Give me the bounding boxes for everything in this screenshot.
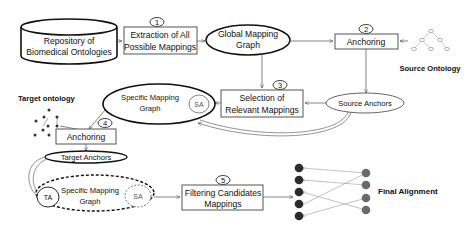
target-ontology-label: Target ontology	[18, 94, 76, 103]
repository-cylinder: Repository of Biomedical Ontologies	[21, 19, 117, 64]
step-2-label: Anchoring	[347, 37, 386, 47]
pipeline-diagram: Repository of Biomedical Ontologies 1 Ex…	[0, 0, 476, 235]
step-3-number: 3	[278, 81, 282, 90]
step-1-extraction: 1 Extraction of All Possible Mappings	[124, 18, 197, 55]
specific-mapping-graph-1: Specific Mapping Graph SA	[103, 84, 215, 124]
sa-badge-1-label: SA	[194, 101, 204, 108]
step-5-filtering: 5 Filtering Candidates Mappings	[182, 176, 263, 211]
step-2-number: 2	[364, 25, 368, 34]
target-anchors: Target Anchors	[45, 151, 127, 163]
repository-label-2: Biomedical Ontologies	[26, 47, 112, 57]
target-anchors-label: Target Anchors	[61, 153, 112, 162]
step-4-label: Anchoring	[67, 132, 106, 142]
target-alignment-nodes	[362, 169, 371, 215]
specific-graph-1-label-2: Graph	[139, 104, 160, 113]
step-5-label-1: Filtering Candidates	[185, 188, 261, 198]
step-5-number: 5	[221, 176, 225, 185]
final-alignment-graph	[295, 164, 371, 221]
step-2-anchoring: 2 Anchoring	[335, 25, 398, 50]
step-4-anchoring: 4 Anchoring	[56, 119, 116, 145]
specific-mapping-graph-2: TA SA Specific Mapping Graph	[36, 175, 154, 211]
step-1-number: 1	[155, 18, 159, 27]
sa-badge-2-label: SA	[133, 193, 143, 200]
step-1-label-2: Possible Mappings	[124, 42, 196, 52]
final-alignment-label: Final Alignment	[378, 187, 438, 196]
specific-graph-1-label-1: Specific Mapping	[121, 93, 179, 102]
step-5-label-2: Mappings	[204, 199, 241, 209]
source-alignment-nodes	[295, 164, 304, 221]
specific-graph-2-label-2: Graph	[79, 197, 100, 206]
global-graph-label-1: Global Mapping	[218, 29, 278, 39]
step-3-label-2: Relevant Mappings	[225, 105, 299, 115]
ta-badge-label: TA	[44, 194, 53, 201]
global-graph-label-2: Graph	[236, 40, 260, 50]
source-anchors-label: Source Anchors	[338, 99, 392, 108]
source-ontology-tree	[412, 29, 450, 50]
target-ontology-graph	[34, 109, 59, 137]
global-mapping-graph: Global Mapping Graph	[206, 25, 290, 55]
repository-label-1: Repository of	[44, 36, 95, 46]
step-1-label-1: Extraction of All	[130, 30, 189, 40]
source-anchors: Source Anchors	[326, 93, 404, 113]
source-ontology-label: Source Ontology	[399, 64, 461, 73]
specific-graph-2-label-1: Specific Mapping	[61, 186, 119, 195]
step-3-label-1: Selection of	[240, 93, 286, 103]
step-4-number: 4	[103, 119, 107, 128]
